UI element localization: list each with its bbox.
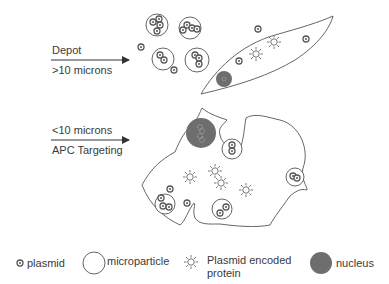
protein-icon xyxy=(239,183,253,197)
nucleus-icon xyxy=(216,71,232,87)
plasmid-icon xyxy=(255,26,261,32)
diagram-canvas xyxy=(0,0,389,284)
protein-icon xyxy=(214,176,228,190)
microparticle-icon xyxy=(179,17,201,39)
legend-nucleus-icon xyxy=(310,252,332,274)
legend-nucleus-label: nucleus xyxy=(336,257,374,269)
microparticle-icon xyxy=(222,139,242,159)
legend-protein-label-1: Plasmid encoded xyxy=(207,254,291,266)
microparticle-icon xyxy=(155,194,175,214)
plasmid-icon xyxy=(171,67,177,73)
legend-plasmid-label: plasmid xyxy=(27,257,65,269)
plasmid-icon xyxy=(184,200,190,206)
microparticle-icon xyxy=(212,199,232,219)
legend-protein-label-2: protein xyxy=(207,267,241,279)
depot-label: Depot xyxy=(52,44,81,56)
plasmid-icon xyxy=(167,186,173,192)
protein-icon xyxy=(183,170,197,184)
microparticle-icon xyxy=(185,48,209,72)
protein-icon xyxy=(208,164,222,178)
microparticle-icon xyxy=(286,168,304,186)
legend-microparticle-label: microparticle xyxy=(107,255,169,267)
plasmid-icon xyxy=(303,36,309,42)
apc-targeting-label: APC Targeting xyxy=(52,144,123,156)
legend-microparticle-icon xyxy=(83,252,105,274)
legend-protein-icon xyxy=(184,255,198,269)
microparticle-icon xyxy=(146,14,168,36)
plasmid-icon xyxy=(236,58,242,64)
protein-icon xyxy=(249,47,263,61)
size-small-label: <10 microns xyxy=(52,124,112,136)
nucleus-icon xyxy=(186,118,216,148)
protein-icon xyxy=(267,35,281,49)
legend-plasmid-icon xyxy=(17,260,23,266)
plasmid-icon xyxy=(138,44,144,50)
size-large-label: >10 microns xyxy=(52,64,112,76)
microparticle-icon xyxy=(152,48,174,70)
